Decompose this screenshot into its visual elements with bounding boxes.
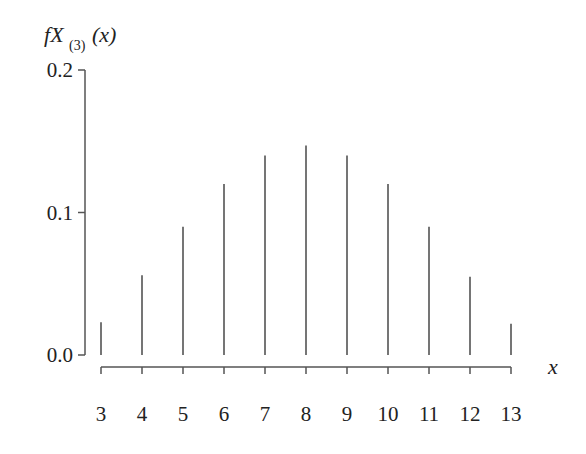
y-tick-label: 0.0 (47, 343, 73, 367)
x-tick-label: 8 (301, 402, 312, 426)
svg-text:fX: fX (44, 22, 65, 47)
x-tick-label: 7 (260, 402, 271, 426)
x-tick-label: 4 (137, 402, 148, 426)
x-tick-label: 9 (342, 402, 353, 426)
x-tick-label: 6 (219, 402, 230, 426)
x-tick-label: 13 (501, 402, 522, 426)
x-tick-label: 10 (378, 402, 399, 426)
y-tick-label: 0.1 (47, 201, 73, 225)
x-tick-label: 12 (460, 402, 481, 426)
svg-text:(3): (3) (69, 38, 86, 54)
x-axis-title: x (547, 354, 558, 379)
x-tick-label: 11 (419, 402, 439, 426)
stems (101, 146, 511, 355)
stem-chart: fX (3) (x) 0.00.10.2 345678910111213 x (0, 0, 586, 454)
x-axis: 345678910111213 (96, 367, 522, 426)
y-tick-label: 0.2 (47, 58, 73, 82)
y-axis-title: fX (3) (x) (44, 22, 116, 54)
x-tick-label: 3 (96, 402, 107, 426)
x-tick-label: 5 (178, 402, 189, 426)
y-axis-title-arg: (x) (92, 22, 116, 47)
y-axis: 0.00.10.2 (47, 58, 85, 367)
